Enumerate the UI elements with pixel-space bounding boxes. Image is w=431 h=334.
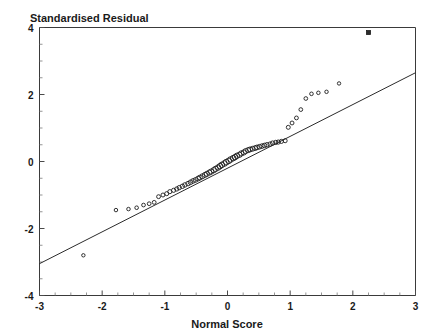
data-point xyxy=(337,82,340,85)
y-tick-label: 4 xyxy=(28,23,34,34)
data-point xyxy=(286,125,290,129)
data-point xyxy=(304,97,308,101)
data-point xyxy=(295,116,299,120)
x-tick-label: -2 xyxy=(98,301,107,312)
plot-frame xyxy=(40,28,416,296)
data-point xyxy=(135,206,139,210)
x-axis-tick-labels: -3-2-10123 xyxy=(35,301,419,312)
x-axis-ticks xyxy=(40,291,416,296)
x-tick-label: 2 xyxy=(350,301,356,312)
y-tick-label: 2 xyxy=(28,90,34,101)
data-point xyxy=(127,207,131,211)
x-tick-label: 1 xyxy=(287,301,293,312)
y-axis-tick-labels: -4-2024 xyxy=(25,23,34,302)
x-tick-label: 3 xyxy=(413,301,419,312)
x-tick-label: -1 xyxy=(160,301,169,312)
data-point xyxy=(317,91,321,95)
data-point xyxy=(290,121,294,125)
x-axis-title: Normal Score xyxy=(191,318,263,330)
qq-plot-canvas: Standardised Residual -3-2-10123 -4-2024… xyxy=(0,0,431,334)
data-point xyxy=(82,254,85,257)
data-point xyxy=(142,203,146,207)
reference-line xyxy=(40,73,416,264)
data-point-markers xyxy=(82,82,341,257)
y-tick-label: -4 xyxy=(25,291,34,302)
y-tick-label: -2 xyxy=(25,224,34,235)
outlier-point xyxy=(367,31,371,35)
y-tick-label: 0 xyxy=(28,157,34,168)
x-tick-label: -3 xyxy=(35,301,44,312)
data-point xyxy=(114,208,117,211)
data-point xyxy=(147,202,151,206)
data-point xyxy=(157,195,161,199)
data-point xyxy=(325,90,328,93)
data-point xyxy=(310,92,314,96)
outlier-marker xyxy=(367,31,371,35)
qq-plot-figure: Standardised Residual -3-2-10123 -4-2024… xyxy=(0,0,431,334)
data-point xyxy=(299,108,303,112)
y-axis-ticks xyxy=(40,28,45,296)
y-axis-title: Standardised Residual xyxy=(30,12,149,24)
x-tick-label: 0 xyxy=(225,301,231,312)
data-point xyxy=(152,200,156,204)
